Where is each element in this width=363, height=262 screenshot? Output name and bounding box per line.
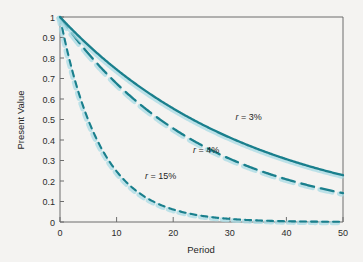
present-value-chart-figure: 1 0.9 0.8 0.7 0.6 0.5 0.4 0.3 0.2 0.1 0 … (0, 0, 363, 262)
series-label-4pct: r = 4% (193, 145, 219, 155)
x-tick-label-0: 0 (57, 228, 62, 238)
series-label-4pct-value: 4% (206, 145, 219, 155)
y-tick-label-0: 0 (50, 218, 55, 228)
x-axis-title: Period (187, 244, 214, 255)
series-label-3pct-eq: = (238, 112, 248, 122)
x-tick-label-10: 10 (112, 228, 122, 238)
y-tick-label-0.4: 0.4 (42, 136, 55, 146)
y-tick-label-0.8: 0.8 (42, 54, 55, 64)
x-tick-label-40: 40 (281, 228, 291, 238)
y-tick-label-0.3: 0.3 (42, 156, 55, 166)
y-tick-label-0.5: 0.5 (42, 115, 55, 125)
x-tick-label-50: 50 (338, 228, 348, 238)
y-tick-label-0.9: 0.9 (42, 33, 55, 43)
y-tick-label-0.1: 0.1 (42, 197, 55, 207)
series-label-15pct-eq: = (148, 171, 158, 181)
y-tick-label-0.2: 0.2 (42, 177, 55, 187)
series-label-3pct-value: 3% (249, 112, 262, 122)
series-label-3pct: r = 3% (235, 112, 261, 122)
series-label-15pct: r = 15% (145, 171, 176, 181)
y-tick-label-1: 1 (50, 13, 55, 23)
y-tick-label-0.6: 0.6 (42, 95, 55, 105)
series-label-15pct-value: 15% (158, 171, 176, 181)
y-axis-title: Present Value (15, 91, 26, 150)
x-tick-label-30: 30 (225, 228, 235, 238)
series-label-4pct-eq: = (196, 145, 206, 155)
x-tick-label-20: 20 (168, 228, 178, 238)
y-tick-label-0.7: 0.7 (42, 74, 55, 84)
